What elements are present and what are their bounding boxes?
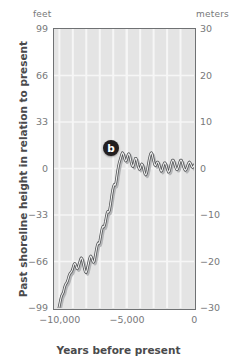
y-tick-right-10: 10 [200, 117, 237, 127]
x-tick-zero: 0 [159, 315, 229, 325]
right-axis-unit-label: meters [196, 9, 229, 19]
x-axis-title: Years before present [0, 344, 237, 356]
y-tick-right-n10: −10 [200, 210, 237, 220]
y-tick-left-n99: −99 [4, 303, 48, 313]
plot-area [53, 28, 196, 310]
annotation-marker-b[interactable]: b [103, 140, 119, 156]
y-tick-left-99: 99 [4, 24, 48, 34]
chart-figure: feet meters Past shoreline height in rel… [0, 0, 237, 362]
left-axis-unit-label: feet [33, 9, 52, 19]
y-tick-right-n30: −30 [200, 303, 237, 313]
y-tick-right-0: 0 [200, 164, 237, 174]
y-tick-left-0: 0 [4, 164, 48, 174]
shoreline-curve-shadow [56, 154, 194, 308]
y-tick-right-n20: −20 [200, 257, 237, 267]
x-tick-minus-10000: −10,000 [25, 315, 95, 325]
shoreline-curve-outline [54, 153, 194, 308]
y-tick-left-n66: −66 [4, 257, 48, 267]
y-tick-left-33: 33 [4, 117, 48, 127]
plot-svg [54, 29, 194, 308]
x-tick-minus-5000: −5,000 [92, 315, 162, 325]
y-tick-left-n33: −33 [4, 210, 48, 220]
y-tick-right-30: 30 [200, 24, 237, 34]
y-tick-left-66: 66 [4, 71, 48, 81]
y-tick-right-20: 20 [200, 71, 237, 81]
shoreline-curve [54, 153, 194, 308]
